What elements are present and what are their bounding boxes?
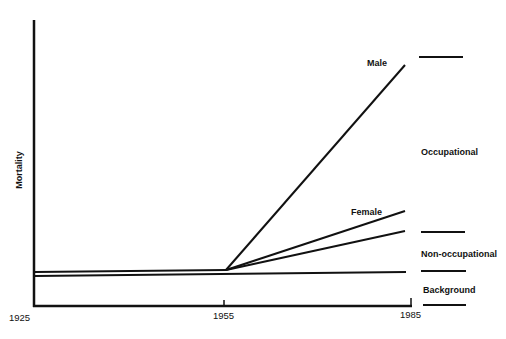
- mortality-chart: Mortality Male Female Occupational Non-o…: [0, 0, 506, 339]
- x-tick-label-1925: 1925: [9, 312, 30, 323]
- y-axis-label: Mortality: [14, 151, 24, 189]
- background-line: [35, 272, 406, 276]
- label-female: Female: [351, 207, 382, 217]
- male-line: [226, 65, 405, 270]
- label-non-occupational: Non-occupational: [421, 249, 497, 259]
- label-occupational: Occupational: [421, 147, 478, 157]
- x-tick-label-1985: 1985: [400, 309, 421, 320]
- non-occupational-line: [226, 231, 405, 270]
- x-tick-label-1955: 1955: [213, 310, 234, 321]
- early-upper-line: [35, 270, 226, 272]
- label-male: Male: [367, 58, 387, 68]
- label-background: Background: [423, 285, 476, 295]
